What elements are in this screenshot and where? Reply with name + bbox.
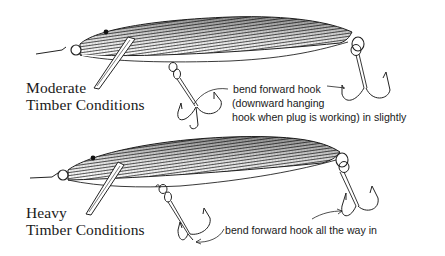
lure-hook-diagram: Moderate Timber Conditions bend forward … <box>0 0 445 256</box>
moderate-condition-label-line2: Timber Conditions <box>26 96 145 113</box>
moderate-annotation-line1: bend forward hook <box>233 82 321 96</box>
moderate-annotation-line3: hook when plug is working) in slightly <box>232 110 406 124</box>
moderate-annotation-line2: (downward hanging <box>232 96 324 110</box>
moderate-condition-label-line1: Moderate <box>26 79 86 96</box>
heavy-annotation-line1: bend forward hook all the way in <box>225 223 377 237</box>
heavy-condition-label-line1: Heavy <box>26 204 67 221</box>
heavy-condition-label-line2: Timber Conditions <box>26 221 145 238</box>
